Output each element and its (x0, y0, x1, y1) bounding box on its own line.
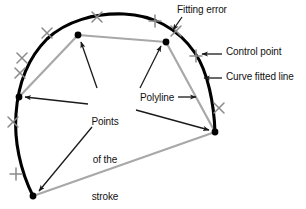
label-fitting-error: Fitting error (177, 4, 227, 17)
stroke-point-mark (17, 53, 27, 63)
control-point-dot (30, 193, 37, 200)
label-polyline: Polyline (140, 92, 174, 105)
label-control-point: Control point (226, 46, 281, 59)
leader-points-to-right-bottom-node (136, 110, 209, 130)
label-curve-fitted-line: Curve fitted line (226, 71, 294, 84)
label-points-line-1: Points (76, 116, 134, 129)
curve-fitting-diagram: Fitting error Control point Curve fitted… (0, 0, 306, 209)
leader-points-to-top-node (81, 42, 97, 88)
stroke-point-mark (10, 168, 22, 180)
control-point-dot (16, 94, 23, 101)
leader-points-to-right-top-node (140, 46, 161, 88)
diagram-canvas (0, 0, 306, 209)
stroke-point-mark (42, 28, 52, 38)
leader-fitting-error (173, 17, 182, 30)
stroke-point-mark (149, 15, 161, 27)
stroke-point-mark (214, 103, 224, 113)
label-points-line-2: of the (76, 154, 134, 167)
label-points-of-the-stroke: Points of the stroke (76, 91, 134, 209)
control-point-dot (163, 39, 170, 46)
control-point-dot (212, 129, 219, 136)
control-point-dot (75, 32, 82, 39)
label-points-line-3: stroke (76, 191, 134, 204)
